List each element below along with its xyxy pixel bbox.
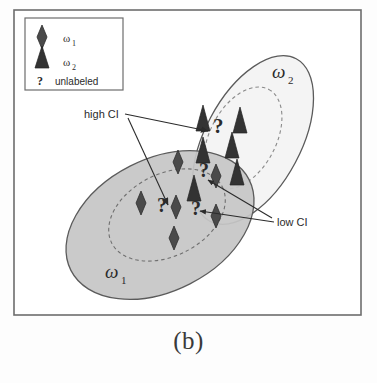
legend-label-omega2-subscript: 2 — [72, 63, 76, 72]
legend-label-omega2: ω — [63, 56, 70, 68]
figure-caption: (b) — [0, 327, 377, 355]
omega1-label: ω — [105, 261, 118, 282]
question-mark-glyph: ? — [199, 159, 209, 181]
high-ci-label: high CI — [84, 108, 119, 120]
legend-label-unlabeled: unlabeled — [55, 76, 98, 87]
legend-label-omega1: ω — [63, 32, 70, 44]
question-mark-glyph: ? — [37, 74, 43, 88]
low-ci-label: low CI — [277, 216, 308, 228]
question-mark-glyph: ? — [157, 194, 167, 216]
legend-label-omega1-subscript: 1 — [72, 39, 76, 48]
question-mark-glyph: ? — [213, 114, 224, 138]
figure-svg: ω 2 ω 1 ? ? ? ? — [0, 0, 377, 383]
omega1-label-subscript: 1 — [121, 274, 127, 286]
figure-root: ω 2 ω 1 ? ? ? ? — [0, 0, 377, 383]
legend: ω 1 ω 2 ? unlabeled — [25, 18, 123, 90]
question-mark-glyph: ? — [191, 197, 201, 219]
omega2-label-subscript: 2 — [288, 74, 294, 86]
omega2-label: ω — [272, 61, 285, 82]
